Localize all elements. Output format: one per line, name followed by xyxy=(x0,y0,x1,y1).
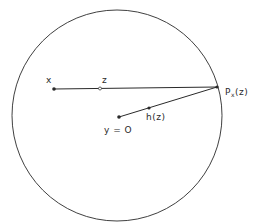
segment-y0-to-Pxz xyxy=(119,87,217,117)
label-y0: y = O xyxy=(104,126,132,135)
segment-x-to-Pxz xyxy=(54,87,217,89)
point-y0-dot xyxy=(117,115,121,119)
point-Pxz-dot xyxy=(215,85,218,88)
point-x-dot xyxy=(52,87,56,91)
label-Pxz: Px(z) xyxy=(225,88,248,97)
point-z-open-dot xyxy=(99,87,102,90)
boundary-circle xyxy=(12,10,222,221)
label-x: x xyxy=(46,76,52,85)
label-hz: h(z) xyxy=(146,113,165,122)
point-hz-dot xyxy=(147,106,150,109)
label-P-argument: (z) xyxy=(235,87,248,97)
label-P-subscript: x xyxy=(231,91,235,98)
label-z: z xyxy=(102,76,107,85)
diagram-canvas xyxy=(0,0,258,224)
